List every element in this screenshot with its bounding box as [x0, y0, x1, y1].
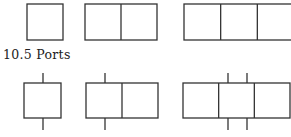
section-heading: 10.5 Ports [3, 47, 71, 62]
bottom-row-box-3-cell [183, 83, 290, 118]
top-row-box-1-cell [27, 4, 63, 40]
ports-diagram [0, 0, 291, 137]
bottom-row-box-1-cell [24, 83, 61, 118]
top-row-box-3-cell [184, 4, 291, 40]
